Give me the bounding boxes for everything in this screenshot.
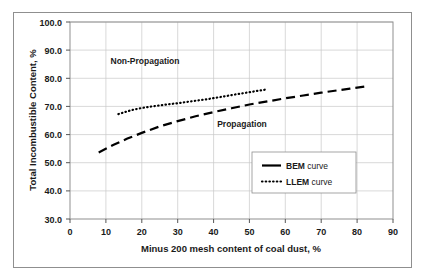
x-tick-label: 0 xyxy=(67,227,72,237)
legend-label-llem-rest: curve xyxy=(309,177,332,187)
x-tick-label: 80 xyxy=(352,227,362,237)
y-axis-title: Total Incombustible Content, % xyxy=(27,49,38,191)
y-tick-label: 60.0 xyxy=(44,130,62,140)
x-axis-ticks xyxy=(70,219,393,223)
y-tick-label: 70.0 xyxy=(44,102,62,112)
legend-label-llem-bold: LLEM xyxy=(286,177,309,187)
y-tick-label: 50.0 xyxy=(44,158,62,168)
figure-container: 100.0 90.0 80.0 70.0 60.0 50.0 40.0 30.0… xyxy=(0,0,425,280)
legend-box xyxy=(252,152,356,193)
legend-label-bem: BEM curve xyxy=(286,161,328,171)
x-tick-label: 60 xyxy=(280,227,290,237)
x-tick-label: 30 xyxy=(173,227,183,237)
annotation-non-propagation: Non-Propagation xyxy=(111,56,180,66)
legend: BEM curve LLEM curve xyxy=(252,152,356,193)
x-tick-label: 70 xyxy=(316,227,326,237)
x-axis-title: Minus 200 mesh content of coal dust, % xyxy=(141,243,322,254)
y-tick-label: 80.0 xyxy=(44,74,62,84)
x-tick-label: 50 xyxy=(244,227,254,237)
annotation-propagation: Propagation xyxy=(217,119,267,129)
x-tick-label: 90 xyxy=(388,227,398,237)
legend-label-llem: LLEM curve xyxy=(286,177,333,187)
legend-label-bem-rest: curve xyxy=(305,161,328,171)
x-tick-label: 40 xyxy=(209,227,219,237)
series-line-llem xyxy=(118,89,267,114)
y-tick-label: 90.0 xyxy=(44,46,62,56)
x-axis-tick-labels: 0 10 20 30 40 50 60 70 80 90 xyxy=(67,227,398,237)
x-tick-label: 20 xyxy=(137,227,147,237)
x-tick-label: 10 xyxy=(101,227,111,237)
chart-canvas: 100.0 90.0 80.0 70.0 60.0 50.0 40.0 30.0… xyxy=(0,0,425,280)
y-tick-label: 40.0 xyxy=(44,186,62,196)
y-axis-ticks xyxy=(66,22,70,219)
legend-label-bem-bold: BEM xyxy=(286,161,305,171)
y-tick-label: 100.0 xyxy=(39,18,62,28)
y-axis-tick-labels: 100.0 90.0 80.0 70.0 60.0 50.0 40.0 30.0 xyxy=(39,18,62,225)
y-tick-label: 30.0 xyxy=(44,215,62,225)
